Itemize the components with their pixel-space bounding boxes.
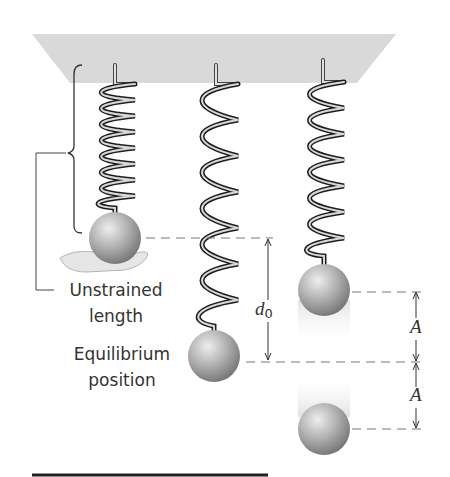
label-amplitude-lower: A — [410, 384, 422, 406]
diagram-canvas — [0, 0, 450, 477]
spring-oscillating — [306, 60, 344, 264]
label-unstrained-length: Unstrained length — [56, 280, 176, 326]
label-d-subscript: 0 — [265, 306, 273, 321]
label-d-symbol: d — [255, 298, 265, 319]
spring-mass-diagram: Unstrained length Equilibrium position d… — [0, 0, 450, 477]
bracket-unstrained-label — [36, 153, 66, 290]
spring-equilibrium — [198, 65, 238, 332]
ball-equilibrium — [188, 330, 240, 382]
ball-top-position — [298, 264, 350, 316]
label-unstrained-line2: length — [56, 306, 176, 326]
spring-unstrained — [98, 65, 135, 214]
label-equilibrium-position: Equilibrium position — [62, 344, 182, 390]
label-equilibrium-line2: position — [62, 370, 182, 390]
label-d0: d0 — [255, 298, 273, 321]
ball-unstrained — [89, 212, 141, 264]
label-unstrained-line1: Unstrained — [56, 280, 176, 300]
label-amplitude-upper: A — [410, 316, 422, 338]
brace-unstrained-length — [68, 65, 82, 233]
label-equilibrium-line1: Equilibrium — [62, 344, 182, 364]
ball-bottom-position — [298, 403, 350, 455]
